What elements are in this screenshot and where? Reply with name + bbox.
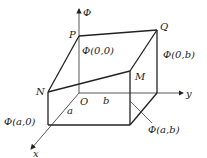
label-phi-axis: Φ xyxy=(83,7,91,18)
edge-QM xyxy=(130,30,157,71)
label-origin: O xyxy=(80,96,88,107)
label-a: a xyxy=(67,105,73,116)
diagram-canvas: Φ y x O P Q M N a b Φ(0,0) Φ(0,b) Φ(a,0)… xyxy=(0,0,207,158)
label-y-axis: y xyxy=(185,88,192,99)
label-b: b xyxy=(103,95,109,106)
label-Q: Q xyxy=(160,21,168,32)
x-axis xyxy=(31,93,79,149)
edge-NP xyxy=(48,36,79,92)
edge-MN xyxy=(48,71,130,92)
label-P: P xyxy=(68,29,76,40)
label-N: N xyxy=(35,86,46,97)
label-phi-ab: Φ(a,b) xyxy=(148,124,180,135)
leader-phi-ab xyxy=(130,101,152,123)
label-phi-00: Φ(0,0) xyxy=(82,45,114,56)
edge-PQ xyxy=(79,30,157,36)
label-phi-a0: Φ(a,0) xyxy=(4,116,36,127)
label-M: M xyxy=(134,71,146,82)
right-bottom-edge xyxy=(130,93,157,125)
label-phi-0b: Φ(0,b) xyxy=(163,49,195,60)
label-x-axis: x xyxy=(33,148,39,158)
bilinear-surface-diagram: Φ y x O P Q M N a b Φ(0,0) Φ(0,b) Φ(a,0)… xyxy=(0,0,207,158)
